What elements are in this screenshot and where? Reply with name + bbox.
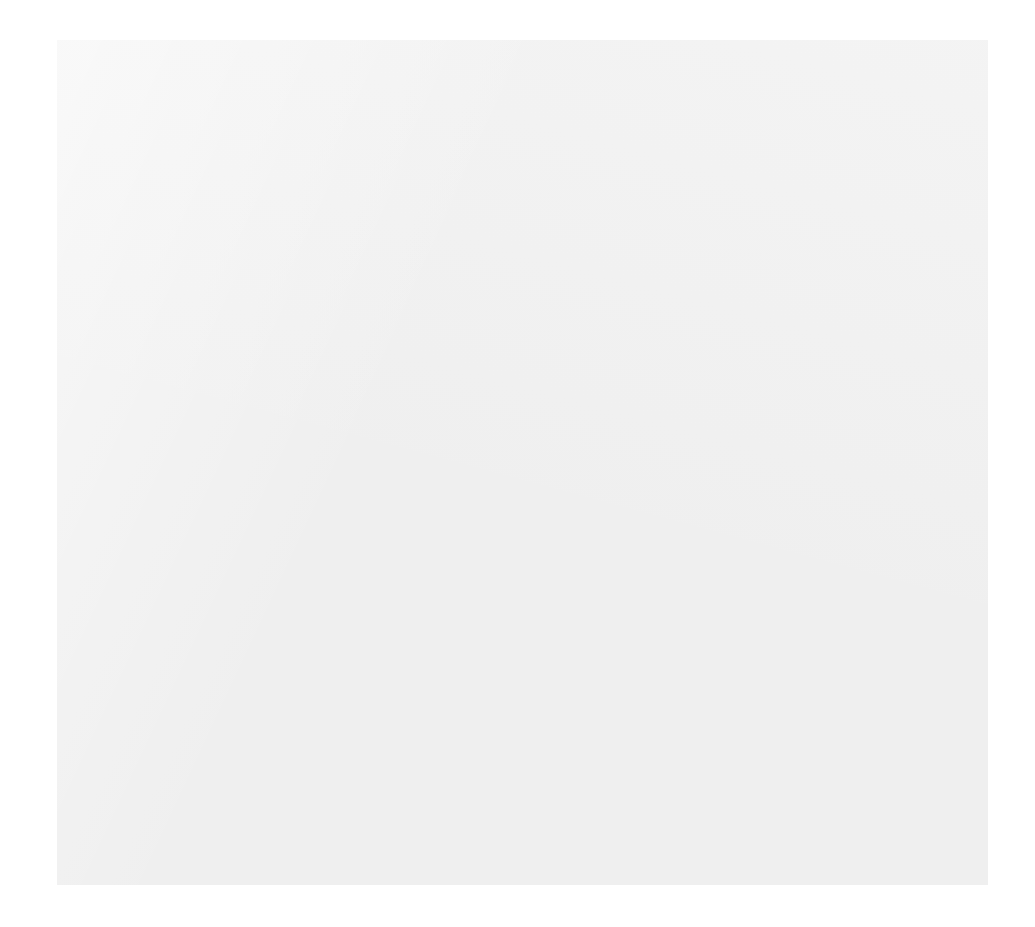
family-tree-page (0, 0, 1035, 927)
family-tree-diagram (0, 0, 1035, 927)
